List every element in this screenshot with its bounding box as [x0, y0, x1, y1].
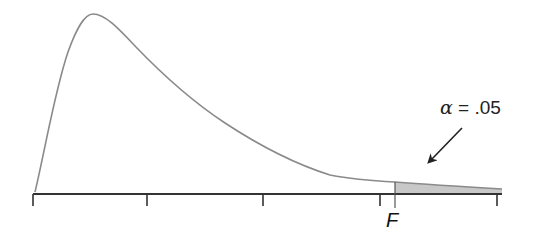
annotation-arrow: [430, 128, 462, 161]
f-distribution-chart: [0, 0, 554, 239]
density-curve: [35, 14, 502, 192]
alpha-value: = .05: [453, 97, 501, 118]
axis-ticks: [33, 194, 497, 206]
critical-value-label: F: [386, 209, 398, 232]
alpha-symbol: α: [440, 96, 453, 118]
alpha-annotation: α = .05: [440, 96, 501, 119]
